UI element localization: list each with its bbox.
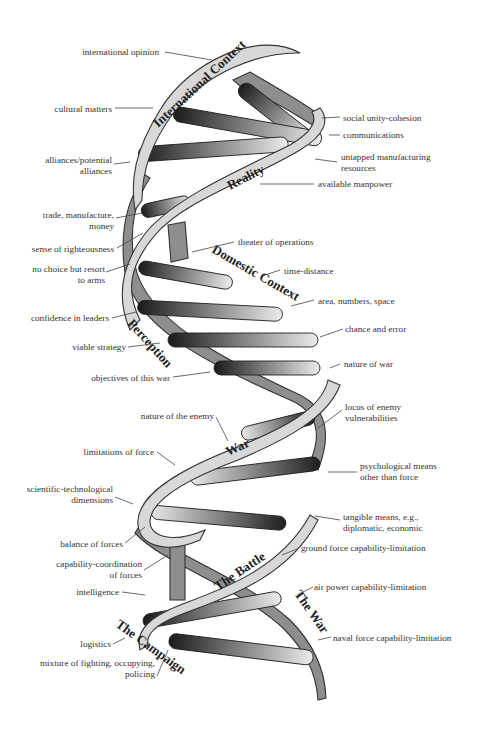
label-sense-of-righteousness: sense of righteousness (32, 244, 115, 254)
label-naval-force: naval force capability-limitation (333, 633, 452, 643)
label-chance-and-error: chance and error (345, 324, 406, 334)
label-trade: trade, manufacture, (43, 210, 114, 220)
label-limitations-of-force: limitations of force (84, 447, 154, 457)
label-tangible-means: tangible means, e.g., (343, 512, 419, 522)
label-trade-2: money (89, 221, 114, 231)
label-nature-of-war: nature of war (344, 359, 393, 369)
label-objectives-of-this-war: objectives of this war (91, 373, 170, 383)
label-scientific-technological: scientific-technological (27, 484, 114, 494)
left-labels: international opinion cultural matters a… (27, 47, 215, 679)
label-international-opinion: international opinion (82, 47, 159, 57)
label-no-choice-2: to arms (78, 275, 106, 285)
label-untapped-manufacturing-2: resources (341, 163, 376, 173)
label-communications: communications (343, 130, 404, 140)
label-locus-of-enemy-2: vulnerabilities (345, 413, 398, 423)
label-mixture-of-fighting: mixture of fighting, occupying, (40, 658, 155, 668)
label-ground-force: ground force capability-limitation (301, 543, 426, 553)
label-untapped-manufacturing: untapped manufacturing (341, 152, 431, 162)
label-balance-of-forces: balance of forces (60, 539, 123, 549)
label-no-choice: no choice but resort (32, 264, 105, 274)
label-capability-coordination: capability-coordination (56, 559, 142, 569)
rung (151, 505, 287, 531)
label-available-manpower: available manpower (318, 179, 392, 189)
label-scientific-technological-2: dimensions (71, 495, 113, 505)
label-capability-coordination-2: of forces (110, 570, 143, 580)
label-air-power: air power capability-limitation (314, 582, 427, 592)
label-psychological-means: psychological means (360, 461, 437, 471)
label-cultural-matters: cultural matters (55, 104, 113, 114)
label-logistics: logistics (80, 639, 111, 649)
label-tangible-means-2: diplomatic, economic (343, 523, 423, 533)
label-social-unity-cohesion: social unity-cohesion (343, 113, 422, 123)
label-alliances-2: alliances (80, 166, 113, 176)
band-label-reality: Reality (225, 161, 268, 193)
label-area-numbers-space: area, numbers, space (318, 296, 395, 306)
label-confidence-in-leaders: confidence in leaders (31, 313, 109, 323)
label-viable-strategy: viable strategy (72, 342, 126, 352)
rung (138, 260, 234, 290)
war-dna-helix-diagram: International Context Reality Domestic C… (0, 0, 478, 742)
label-psychological-means-2: other than force (360, 472, 418, 482)
label-theater-of-operations: theater of operations (238, 237, 314, 247)
label-intelligence: intelligence (76, 587, 119, 597)
label-time-distance: time-distance (284, 266, 334, 276)
label-mixture-of-fighting-2: policing (125, 669, 156, 679)
label-nature-of-the-enemy: nature of the enemy (141, 411, 215, 421)
label-locus-of-enemy: locus of enemy (345, 402, 402, 412)
label-alliances: alliances/potential (45, 155, 112, 165)
